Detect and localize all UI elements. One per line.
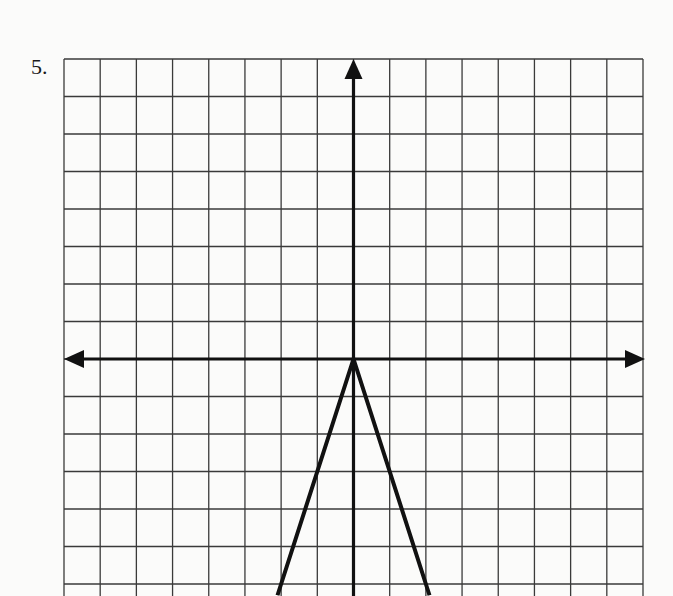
right-arrow-icon xyxy=(625,350,645,368)
coordinate-graph xyxy=(0,0,673,596)
axes xyxy=(64,59,645,596)
up-arrow-icon xyxy=(345,59,363,79)
left-arrow-icon xyxy=(64,350,84,368)
